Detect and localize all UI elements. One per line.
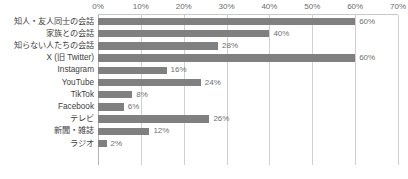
bar-value-label: 60%	[359, 52, 375, 64]
category-axis-label: X (旧 Twitter)	[46, 52, 94, 64]
bar-value-label: 12%	[153, 125, 169, 137]
x-axis-tick-label: 0%	[92, 2, 104, 12]
bar	[98, 115, 209, 122]
category-axis-label: 知らない人たちの会話	[14, 40, 94, 52]
category-axis-label: Facebook	[58, 101, 94, 113]
x-axis-tick-label: 20%	[176, 2, 192, 12]
bar	[98, 128, 149, 135]
bar	[98, 79, 201, 86]
x-axis-tick-labels: 0%10%20%30%40%50%60%70%	[0, 0, 408, 14]
category-rows: 知人・友人同士の会話60%家族との会話40%知らない人たちの会話28%X (旧 …	[0, 14, 408, 164]
bar-value-label: 2%	[111, 138, 123, 150]
bar	[98, 103, 124, 110]
bar-value-label: 40%	[273, 28, 289, 40]
bar	[98, 54, 355, 61]
x-axis-tick-label: 30%	[219, 2, 235, 12]
bar-value-label: 6%	[128, 101, 140, 113]
category-axis-label: TikTok	[71, 89, 94, 101]
bar-value-label: 26%	[213, 113, 229, 125]
category-axis-label: テレビ	[70, 113, 94, 125]
category-axis-label: ラジオ	[70, 138, 94, 150]
bar	[98, 42, 218, 49]
bar-chart: 0%10%20%30%40%50%60%70% 知人・友人同士の会話60%家族と…	[0, 0, 408, 179]
chart-category-row: テレビ26%	[0, 113, 408, 125]
chart-category-row: 知らない人たちの会話28%	[0, 40, 408, 52]
bar-value-label: 8%	[136, 89, 148, 101]
chart-category-row: 新聞・雑誌12%	[0, 125, 408, 137]
chart-category-row: ラジオ2%	[0, 138, 408, 150]
x-axis-tick-label: 10%	[133, 2, 149, 12]
x-axis-tick-label: 70%	[390, 2, 406, 12]
bar	[98, 18, 355, 25]
bar	[98, 91, 132, 98]
bar-value-label: 60%	[359, 16, 375, 28]
chart-category-row: Facebook6%	[0, 101, 408, 113]
x-axis-tick-label: 40%	[261, 2, 277, 12]
category-axis-label: 新聞・雑誌	[54, 125, 94, 137]
category-axis-label: YouTube	[62, 77, 94, 89]
bar	[98, 30, 269, 37]
chart-category-row: YouTube24%	[0, 77, 408, 89]
chart-category-row: X (旧 Twitter)60%	[0, 52, 408, 64]
category-axis-label: Instagram	[58, 64, 94, 76]
bar-value-label: 28%	[222, 40, 238, 52]
category-axis-label: 知人・友人同士の会話	[14, 16, 94, 28]
chart-category-row: 知人・友人同士の会話60%	[0, 16, 408, 28]
x-axis-tick-label: 50%	[304, 2, 320, 12]
bar-value-label: 24%	[205, 77, 221, 89]
chart-category-row: 家族との会話40%	[0, 28, 408, 40]
category-axis-label: 家族との会話	[46, 28, 94, 40]
chart-category-row: TikTok8%	[0, 89, 408, 101]
chart-category-row: Instagram16%	[0, 64, 408, 76]
x-axis-tick-label: 60%	[347, 2, 363, 12]
bar	[98, 67, 167, 74]
bar	[98, 140, 107, 147]
bar-value-label: 16%	[171, 64, 187, 76]
